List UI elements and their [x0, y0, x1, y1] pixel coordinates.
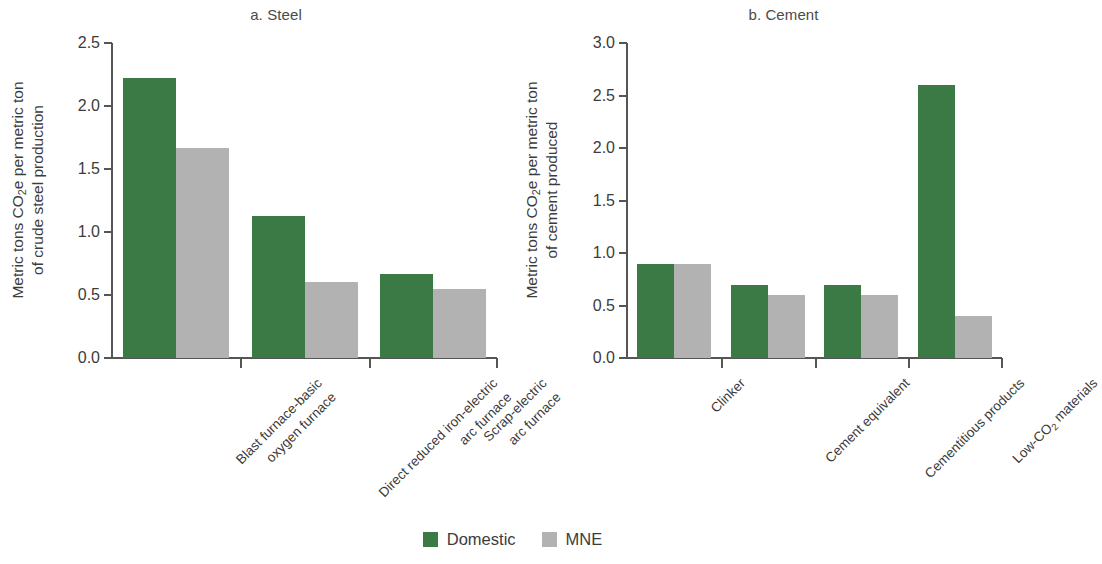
y-tick-mark	[619, 200, 627, 202]
bar-group	[731, 43, 805, 358]
x-category-label: Cement equivalent	[821, 374, 914, 467]
y-tick-mark	[619, 147, 627, 149]
bar-group	[123, 43, 229, 358]
panel-a-y-axis-label: Metric tons CO2e per metric ton of crude…	[8, 30, 49, 350]
x-category-label-line: Cementitious products	[921, 374, 1030, 483]
chart-panel-cement: b. Cement Metric tons CO2e per metric to…	[512, 0, 1025, 520]
bar-mne	[674, 264, 711, 359]
y-tick-label: 2.0	[78, 97, 100, 115]
x-category-label-line: arc furnace	[388, 388, 516, 516]
bar-domestic	[123, 78, 176, 358]
legend-swatch-domestic-icon	[423, 532, 438, 547]
bar-group	[918, 43, 992, 358]
y-tick-label: 0.5	[78, 286, 100, 304]
chart-legend: Domestic MNE	[0, 530, 1025, 549]
bar-mne	[305, 282, 358, 358]
bar-mne	[176, 148, 229, 358]
y-tick-label: 1.0	[78, 223, 100, 241]
panel-a-plot-area: 0.00.51.01.52.02.5	[112, 43, 497, 358]
legend-swatch-mne-icon	[542, 532, 557, 547]
x-category-label: Blast furnace-basicoxygen furnace	[232, 374, 341, 483]
y-tick-label: 1.5	[593, 192, 615, 210]
panel-b-title: b. Cement	[512, 6, 1025, 23]
y-tick-mark	[619, 305, 627, 307]
y-tick-mark	[619, 252, 627, 254]
x-tick-mark	[1001, 358, 1003, 368]
x-tick-mark	[908, 358, 910, 368]
bar-group	[380, 43, 486, 358]
y-tick-mark	[619, 42, 627, 44]
panel-a-title: a. Steel	[0, 6, 512, 23]
subscript: 2	[1049, 421, 1060, 432]
panel-b-y-axis-label: Metric tons CO2e per metric ton of cemen…	[522, 30, 563, 350]
panel-b-y-axis-label-line2: of cement produced	[542, 30, 562, 350]
panel-a-y-axis-label-line2: of crude steel production	[28, 30, 48, 350]
y-tick-label: 1.5	[78, 160, 100, 178]
x-category-label: Cementitious products	[921, 374, 1030, 483]
bar-domestic	[918, 85, 955, 358]
y-tick-mark	[619, 357, 627, 359]
bar-mne	[768, 295, 805, 358]
x-category-label: Clinker	[706, 374, 750, 418]
y-tick-label: 0.0	[593, 349, 615, 367]
y-tick-mark	[104, 357, 112, 359]
x-tick-mark	[496, 358, 498, 368]
bar-group	[637, 43, 711, 358]
bar-mne	[861, 295, 898, 358]
x-category-label-line: Clinker	[706, 374, 750, 418]
bar-mne	[433, 289, 486, 358]
y-tick-mark	[104, 42, 112, 44]
legend-item-domestic: Domestic	[423, 530, 516, 549]
legend-item-mne: MNE	[542, 530, 603, 549]
y-tick-label: 3.0	[593, 34, 615, 52]
panel-a-y-axis-label-line1: Metric tons CO2e per metric ton	[9, 81, 26, 298]
y-tick-label: 2.5	[593, 87, 615, 105]
y-tick-label: 0.5	[593, 297, 615, 315]
x-tick-mark	[721, 358, 723, 368]
bar-domestic	[252, 216, 305, 358]
bar-domestic	[637, 264, 674, 359]
y-tick-label: 0.0	[78, 349, 100, 367]
subscript: 2	[530, 189, 542, 195]
legend-label-domestic: Domestic	[447, 530, 516, 549]
panel-b-y-axis-label-line1: Metric tons CO2e per metric ton	[523, 81, 540, 298]
bar-group	[824, 43, 898, 358]
x-tick-mark	[369, 358, 371, 368]
x-tick-mark	[240, 358, 242, 368]
x-category-label-line: Cement equivalent	[821, 374, 914, 467]
y-tick-label: 2.5	[78, 34, 100, 52]
legend-label-mne: MNE	[566, 530, 603, 549]
bar-group	[252, 43, 358, 358]
y-tick-mark	[104, 294, 112, 296]
y-tick-label: 2.0	[593, 139, 615, 157]
bar-mne	[955, 316, 992, 358]
bar-domestic	[731, 285, 768, 359]
y-tick-mark	[104, 168, 112, 170]
y-tick-mark	[104, 105, 112, 107]
y-tick-mark	[104, 231, 112, 233]
y-tick-label: 1.0	[593, 244, 615, 262]
y-tick-mark	[619, 95, 627, 97]
x-tick-mark	[815, 358, 817, 368]
chart-panel-steel: a. Steel Metric tons CO2e per metric ton…	[0, 0, 512, 520]
panel-b-plot-area: 0.00.51.01.52.02.53.0	[627, 43, 1002, 358]
bar-domestic	[380, 274, 433, 358]
x-category-label-line: Direct reduced iron-electric	[374, 374, 502, 502]
subscript: 2	[16, 189, 28, 195]
panel-a-y-axis-line	[111, 43, 113, 358]
bar-domestic	[824, 285, 861, 359]
